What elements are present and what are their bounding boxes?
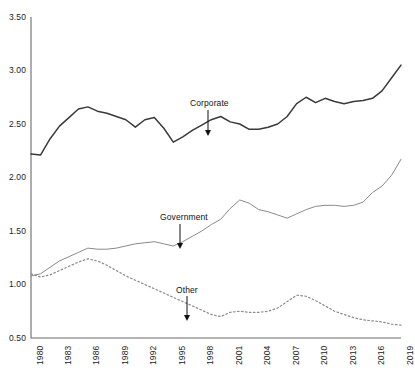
y-axis-tick-label: 0.50	[0, 333, 26, 343]
x-axis-tick-label: 2010	[319, 346, 329, 365]
x-axis-tick-label: 2013	[348, 346, 358, 365]
series-line-corporate	[31, 65, 401, 155]
y-axis-tick-label: 2.50	[0, 119, 26, 129]
x-axis-tick-label: 1992	[148, 346, 158, 365]
series-line-government	[31, 159, 401, 276]
annotation-arrow-head-corporate	[205, 130, 211, 136]
y-axis-tick-label: 3.00	[0, 65, 26, 75]
y-axis-tick-label: 2.00	[0, 172, 26, 182]
y-axis-tick-label: 3.50	[0, 12, 26, 22]
x-axis-tick-label: 2007	[291, 346, 301, 365]
x-axis-tick-label: 2004	[262, 346, 272, 365]
x-axis-tick-label: 2019	[405, 346, 415, 365]
x-axis-tick-label: 1998	[205, 346, 215, 365]
x-axis-tick-label: 1995	[177, 346, 187, 365]
x-axis-tick-label: 1983	[63, 346, 73, 365]
annotation-arrow-head-other	[184, 315, 190, 321]
y-axis-tick-label: 1.50	[0, 226, 26, 236]
annotation-label-corporate: Corporate	[190, 98, 229, 108]
series-line-other	[31, 259, 401, 325]
x-axis-tick-label: 1986	[91, 346, 101, 365]
x-axis-tick-label: 2016	[376, 346, 386, 365]
x-axis-tick-label: 1989	[120, 346, 130, 365]
y-axis-tick-label: 1.00	[0, 279, 26, 289]
x-axis-tick-label: 1980	[35, 346, 45, 365]
annotation-label-government: Government	[160, 212, 208, 222]
x-axis-tick-label: 2001	[234, 346, 244, 365]
annotation-arrow-head-government	[177, 243, 183, 249]
annotation-label-other: Other	[176, 285, 198, 295]
axis-spine	[31, 17, 401, 338]
